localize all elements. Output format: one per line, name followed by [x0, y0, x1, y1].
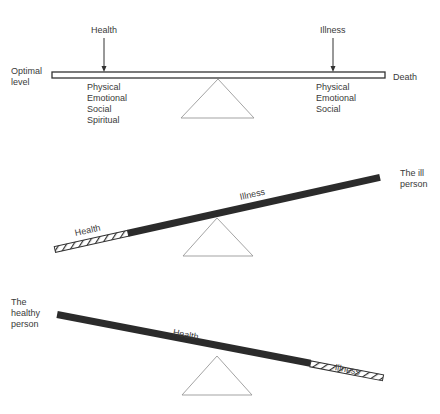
- optimal-level-label: Optimal level: [11, 66, 42, 88]
- panel-ill-person: [54, 174, 381, 256]
- healthy-person-caption: The healthy person: [11, 297, 40, 330]
- seesaw-diagram: [0, 0, 440, 414]
- health-dimensions-list: Physical Emotional Social Spiritual: [87, 82, 127, 126]
- fulcrum-3: [182, 356, 252, 395]
- panel-healthy-person: [56, 311, 383, 395]
- ill-person-caption: The ill person: [400, 168, 428, 190]
- illness-dimensions-list: Physical Emotional Social: [316, 82, 356, 115]
- health-arrowhead-icon: [102, 66, 107, 72]
- illness-label: Illness: [320, 25, 346, 36]
- illness-arrowhead-icon: [331, 66, 336, 72]
- death-label: Death: [393, 72, 417, 83]
- balanced-beam: [52, 72, 385, 78]
- health-label: Health: [91, 25, 117, 36]
- fulcrum-2: [183, 218, 253, 256]
- illness-solid-segment: [127, 174, 380, 237]
- fulcrum-1: [181, 79, 254, 118]
